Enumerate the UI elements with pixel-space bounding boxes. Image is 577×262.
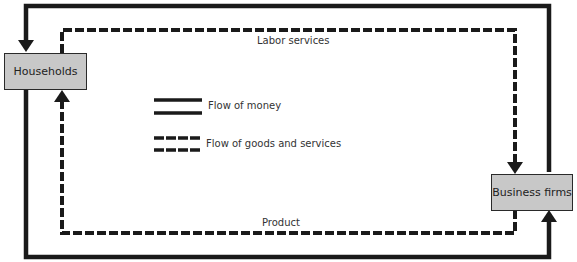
arrow-up-icon: [541, 210, 557, 222]
legend-goods-label: Flow of goods and services: [206, 138, 341, 149]
arrow-down-icon: [507, 162, 523, 174]
households-node: Households: [4, 53, 87, 90]
households-label: Households: [14, 65, 78, 78]
arrow-down-icon: [18, 40, 34, 52]
product-flow: [54, 90, 515, 233]
labor-services-flow: [62, 30, 523, 174]
product-label: Product: [262, 217, 300, 228]
labor-services-label: Labor services: [257, 35, 330, 46]
legend-money-label: Flow of money: [208, 100, 281, 111]
business-firms-label: Business firms: [492, 186, 572, 199]
business-firms-node: Business firms: [491, 174, 573, 211]
arrow-up-icon: [54, 90, 70, 102]
legend-goods-symbol: [154, 138, 202, 150]
legend-money-symbol: [154, 100, 202, 113]
